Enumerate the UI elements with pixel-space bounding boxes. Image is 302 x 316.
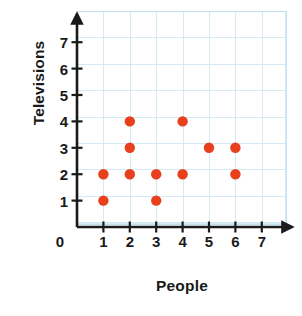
y-tick-label: 6 (50, 62, 68, 77)
y-axis-title: Televisions (30, 23, 48, 143)
x-tick-label: 4 (174, 234, 192, 249)
y-tick-label: 2 (50, 167, 68, 182)
x-tick-label: 1 (94, 234, 112, 249)
x-tick-label: 3 (147, 234, 165, 249)
x-tick-label: 5 (200, 234, 218, 249)
x-tick-label: 7 (253, 234, 271, 249)
x-axis-title: People (77, 277, 287, 295)
y-tick-label: 1 (50, 194, 68, 209)
scatter-plot-figure: Televisions People 0 1234567 1234567 (0, 0, 302, 316)
origin-tick-label: 0 (51, 234, 69, 249)
y-tick-label: 3 (50, 141, 68, 156)
y-tick-label: 5 (50, 88, 68, 103)
y-tick-label: 7 (50, 35, 68, 50)
x-tick-label: 2 (121, 234, 139, 249)
y-tick-label: 4 (50, 114, 68, 129)
x-tick-label: 6 (226, 234, 244, 249)
plot-grid-area (77, 11, 287, 225)
